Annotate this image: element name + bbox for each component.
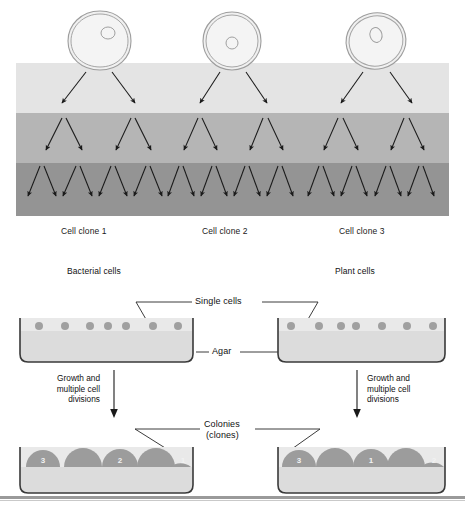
growth-label-right: Growth and multiple cell divisions	[367, 373, 449, 405]
colonies-callout-line2: (clones)	[206, 430, 239, 440]
growth-arrow-right	[347, 368, 367, 420]
clone-label-1: Cell clone 1	[61, 226, 107, 236]
agar-callout: Agar	[212, 346, 231, 356]
colony-label-3: 3	[41, 456, 46, 465]
clone-label-2: Cell clone 2	[202, 226, 248, 236]
colony-label-1: 1	[181, 456, 186, 465]
colonies-callout-line1: Colonies	[204, 419, 240, 429]
growth-label-left: Growth and multiple cell divisions	[22, 373, 100, 405]
plant-colony-dish: 3 1 2	[275, 445, 451, 497]
bacterial-colony-dish: 3 2 1	[17, 445, 199, 497]
colony-label-3: 3	[297, 456, 302, 465]
plant-cells-header: Plant cells	[335, 266, 375, 276]
growth-arrow-left	[104, 368, 124, 420]
bacterial-single-cell-dish	[17, 316, 199, 366]
bacterial-cells-header: Bacterial cells	[67, 266, 121, 276]
colony-label-1: 1	[369, 456, 374, 465]
plant-single-cell-dish	[275, 316, 451, 366]
bottom-divider-rule-light	[0, 500, 465, 501]
bottom-divider-rule	[0, 496, 465, 499]
division-arrows-group	[0, 0, 465, 225]
colony-label-2: 2	[118, 456, 123, 465]
clone-label-3: Cell clone 3	[339, 226, 385, 236]
cell-cloning-diagram: Cell clone 1 Cell clone 2 Cell clone 3 B…	[0, 0, 465, 507]
single-cells-callout: Single cells	[195, 296, 242, 306]
colony-label-2: 2	[432, 456, 437, 465]
